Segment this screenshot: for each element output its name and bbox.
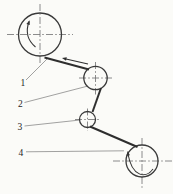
part-label-2: 2 (18, 99, 23, 109)
leader-lines-group (25, 59, 125, 152)
rollers-group (19, 13, 159, 177)
part-labels-group: 1 2 3 4 (18, 78, 26, 158)
leader-line-4 (26, 151, 124, 152)
roller1-rotation-arrow-icon (26, 20, 35, 47)
figure-canvas: 1 2 3 4 (0, 0, 173, 194)
centerlines-group (7, 4, 172, 189)
roller1-rotation-arrowhead-icon (26, 20, 29, 25)
leader-line-1 (26, 59, 48, 81)
web-path-group (45, 58, 138, 148)
roller4-rotation-arc (128, 154, 153, 175)
leader-line-3 (25, 120, 81, 126)
web-direction-arrowhead-icon (62, 57, 67, 60)
part-label-3: 3 (18, 122, 23, 132)
web-segment-roller3-to-roller4 (90, 127, 138, 148)
part-label-4: 4 (19, 148, 24, 158)
leader-line-2 (25, 86, 89, 103)
web-segment-roller2-to-roller3 (93, 88, 102, 112)
roller-web-diagram: 1 2 3 4 (0, 0, 173, 194)
part-label-1: 1 (21, 78, 26, 88)
